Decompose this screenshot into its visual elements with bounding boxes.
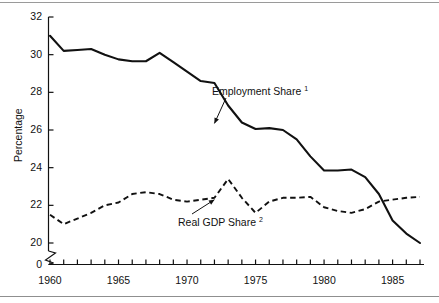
y-axis-tick-label: 32 [10, 11, 42, 22]
series-line-employment-share [50, 36, 420, 243]
x-axis-tick-label: 1985 [373, 275, 413, 286]
y-axis-tick-label: 30 [10, 49, 42, 60]
y-axis-ticks [49, 17, 54, 243]
y-axis-tick-label: 28 [10, 86, 42, 97]
x-axis-tick-label: 1960 [30, 275, 70, 286]
series-label-employment-share: Employment Share 1 [212, 85, 308, 97]
y-axis-zero-label: 0 [10, 259, 42, 270]
y-axis-tick-label: 26 [10, 124, 42, 135]
x-axis-tick-label: 1965 [99, 275, 139, 286]
x-axis-tick-label: 1980 [304, 275, 344, 286]
series-label-real-gdp-share: Real GDP Share 2 [178, 216, 263, 228]
x-axis-tick-label: 1970 [167, 275, 207, 286]
y-axis-tick-label: 24 [10, 162, 42, 173]
x-axis-tick-label: 1975 [236, 275, 276, 286]
x-axis-ticks [50, 260, 420, 265]
chart-figure: Percentage 20222426283032 19601965197019… [0, 0, 439, 303]
y-axis-tick-label: 20 [10, 237, 42, 248]
chart-plot-area [0, 0, 439, 303]
real-gdp-share-arrowhead [209, 200, 215, 205]
y-axis-tick-label: 22 [10, 199, 42, 210]
